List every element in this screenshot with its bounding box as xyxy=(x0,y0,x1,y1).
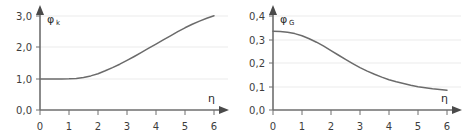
chart-panel-phi-k: 3,0 2,0 1,0 0,0 0 1 2 3 4 5 6 φ k η xyxy=(0,0,232,136)
x-tick-label: 3 xyxy=(357,121,363,132)
x-axis-label: η xyxy=(208,92,215,105)
x-tick-label: 0 xyxy=(270,121,276,132)
x-tick-label: 5 xyxy=(415,121,421,132)
x-axis-arrow xyxy=(452,106,462,114)
phi-k-svg: 3,0 2,0 1,0 0,0 0 1 2 3 4 5 6 φ k η xyxy=(0,0,232,136)
x-tick-label: 3 xyxy=(124,121,130,132)
x-axis-arrow xyxy=(219,106,229,114)
y-tick-labels: 0,4 0,3 0,2 0,1 0,0 xyxy=(249,11,265,116)
y-tick-label: 0,0 xyxy=(249,105,265,116)
x-tick-labels: 0 1 2 3 4 5 6 xyxy=(270,121,450,132)
y-tick-label: 1,0 xyxy=(16,74,32,85)
y-tick-label: 3,0 xyxy=(16,11,32,22)
figure-container: 3,0 2,0 1,0 0,0 0 1 2 3 4 5 6 φ k η xyxy=(0,0,465,136)
x-tick-label: 1 xyxy=(66,121,72,132)
x-tick-label: 4 xyxy=(153,121,159,132)
y-axis-arrow xyxy=(36,5,44,15)
y-tick-label: 0,3 xyxy=(249,35,265,46)
x-tick-labels: 0 1 2 3 4 5 6 xyxy=(37,121,217,132)
y-axis-label: φ xyxy=(47,13,54,26)
y-axis-label-subscript: k xyxy=(56,19,61,27)
gridlines-y xyxy=(273,16,461,87)
y-axis-label: φ xyxy=(280,13,287,26)
chart-panel-phi-g: 0,4 0,3 0,2 0,1 0,0 0 1 2 3 4 5 6 φ G η xyxy=(233,0,465,136)
y-axis-label-subscript: G xyxy=(289,19,294,27)
x-tick-label: 1 xyxy=(299,121,305,132)
y-tick-label: 0,4 xyxy=(249,11,265,22)
y-tick-labels: 3,0 2,0 1,0 0,0 xyxy=(16,11,32,116)
x-tick-label: 6 xyxy=(211,121,217,132)
y-axis-arrow xyxy=(269,5,277,15)
y-tick-label: 0,0 xyxy=(16,105,32,116)
x-axis-label: η xyxy=(441,92,448,105)
y-tick-label: 0,2 xyxy=(249,58,265,69)
x-tick-label: 4 xyxy=(386,121,392,132)
y-tick-label: 0,1 xyxy=(249,82,265,93)
x-tick-label: 5 xyxy=(182,121,188,132)
x-tick-label: 2 xyxy=(95,121,101,132)
phi-g-svg: 0,4 0,3 0,2 0,1 0,0 0 1 2 3 4 5 6 φ G η xyxy=(233,0,465,136)
axis-lines xyxy=(269,5,462,114)
gridlines-y xyxy=(40,16,228,79)
y-tick-label: 2,0 xyxy=(16,42,32,53)
x-tick-label: 6 xyxy=(444,121,450,132)
x-tick-label: 2 xyxy=(328,121,334,132)
x-tick-label: 0 xyxy=(37,121,43,132)
